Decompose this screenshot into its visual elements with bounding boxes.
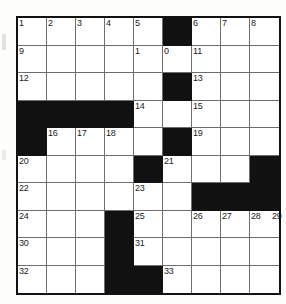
clue-number: 20 xyxy=(19,156,29,166)
block-cell xyxy=(163,18,192,46)
letter-cell[interactable]: 1 xyxy=(18,18,47,46)
letter-cell[interactable] xyxy=(76,183,105,211)
letter-cell[interactable]: 7 xyxy=(221,18,250,46)
letter-cell[interactable] xyxy=(163,101,192,129)
letter-cell[interactable] xyxy=(105,73,134,101)
letter-cell[interactable] xyxy=(105,156,134,184)
letter-cell[interactable] xyxy=(221,266,250,294)
clue-number: 11 xyxy=(193,46,202,56)
clue-number: 26 xyxy=(193,211,203,221)
clue-number: 3 xyxy=(77,18,82,28)
clue-number: 8 xyxy=(251,18,256,28)
clue-number: 30 xyxy=(19,238,29,248)
clue-number: 19 xyxy=(193,128,203,138)
letter-cell[interactable]: 21 xyxy=(163,156,192,184)
letter-cell[interactable] xyxy=(221,101,250,129)
letter-cell[interactable] xyxy=(105,183,134,211)
letter-cell[interactable]: 24 xyxy=(18,211,47,239)
block-cell xyxy=(250,156,279,184)
letter-cell[interactable] xyxy=(250,266,279,294)
letter-cell[interactable] xyxy=(47,211,76,239)
letter-cell[interactable] xyxy=(250,73,279,101)
letter-cell[interactable]: 19 xyxy=(192,128,221,156)
block-cell xyxy=(18,128,47,156)
letter-cell[interactable]: 15 xyxy=(192,101,221,129)
block-cell xyxy=(250,183,279,211)
crossword-grid[interactable]: 1234567891011121314151617181920212223242… xyxy=(16,16,281,295)
letter-cell[interactable] xyxy=(221,156,250,184)
letter-cell[interactable]: 17 xyxy=(76,128,105,156)
letter-cell[interactable] xyxy=(47,238,76,266)
letter-cell[interactable]: 26 xyxy=(192,211,221,239)
letter-cell[interactable] xyxy=(47,73,76,101)
letter-cell[interactable] xyxy=(134,128,163,156)
letter-cell[interactable]: 16 xyxy=(47,128,76,156)
letter-cell[interactable]: 20 xyxy=(18,156,47,184)
crossword-page: 1234567891011121314151617181920212223242… xyxy=(0,0,286,304)
block-cell xyxy=(47,101,76,129)
letter-cell[interactable]: 18 xyxy=(105,128,134,156)
letter-cell[interactable] xyxy=(134,73,163,101)
letter-cell[interactable] xyxy=(163,238,192,266)
letter-cell[interactable]: 31 xyxy=(134,238,163,266)
letter-cell[interactable] xyxy=(163,211,192,239)
letter-cell[interactable] xyxy=(250,101,279,129)
letter-cell[interactable]: 2829 xyxy=(250,211,279,239)
block-cell xyxy=(18,101,47,129)
letter-cell[interactable]: 30 xyxy=(18,238,47,266)
letter-cell[interactable]: 22 xyxy=(18,183,47,211)
clue-number: 21 xyxy=(164,156,174,166)
letter-cell[interactable]: 6 xyxy=(192,18,221,46)
letter-cell[interactable]: 23 xyxy=(134,183,163,211)
clue-number: 9 xyxy=(19,46,24,56)
letter-cell[interactable] xyxy=(76,73,105,101)
clue-number: 0 xyxy=(164,46,169,56)
clue-number: 17 xyxy=(77,128,87,138)
letter-cell[interactable] xyxy=(76,238,105,266)
letter-cell[interactable] xyxy=(47,46,76,74)
letter-cell[interactable]: 9 xyxy=(18,46,47,74)
letter-cell[interactable] xyxy=(76,156,105,184)
letter-cell[interactable] xyxy=(192,238,221,266)
letter-cell[interactable] xyxy=(221,73,250,101)
letter-cell[interactable] xyxy=(221,238,250,266)
letter-cell[interactable] xyxy=(192,266,221,294)
letter-cell[interactable]: 32 xyxy=(18,266,47,294)
letter-cell[interactable] xyxy=(47,266,76,294)
letter-cell[interactable]: 0 xyxy=(163,46,192,74)
letter-cell[interactable]: 13 xyxy=(192,73,221,101)
block-cell xyxy=(134,266,163,294)
letter-cell[interactable] xyxy=(76,46,105,74)
clue-number: 28 xyxy=(251,211,261,221)
clue-number: 1 xyxy=(135,46,140,56)
letter-cell[interactable] xyxy=(47,183,76,211)
letter-cell[interactable] xyxy=(192,156,221,184)
letter-cell[interactable]: 14 xyxy=(134,101,163,129)
letter-cell[interactable]: 8 xyxy=(250,18,279,46)
letter-cell[interactable]: 33 xyxy=(163,266,192,294)
clue-number: 32 xyxy=(19,266,29,276)
letter-cell[interactable]: 3 xyxy=(76,18,105,46)
letter-cell[interactable] xyxy=(76,266,105,294)
letter-cell[interactable]: 4 xyxy=(105,18,134,46)
block-cell xyxy=(163,73,192,101)
letter-cell[interactable] xyxy=(250,238,279,266)
letter-cell[interactable]: 1 xyxy=(134,46,163,74)
block-cell xyxy=(105,238,134,266)
letter-cell[interactable] xyxy=(250,128,279,156)
letter-cell[interactable] xyxy=(221,46,250,74)
letter-cell[interactable] xyxy=(105,46,134,74)
letter-cell[interactable]: 5 xyxy=(134,18,163,46)
letter-cell[interactable]: 27 xyxy=(221,211,250,239)
letter-cell[interactable]: 2 xyxy=(47,18,76,46)
letter-cell[interactable]: 25 xyxy=(134,211,163,239)
letter-cell[interactable]: 12 xyxy=(18,73,47,101)
letter-cell[interactable] xyxy=(163,183,192,211)
letter-cell[interactable] xyxy=(76,211,105,239)
letter-cell[interactable] xyxy=(47,156,76,184)
letter-cell[interactable]: 11 xyxy=(192,46,221,74)
block-cell xyxy=(105,101,134,129)
clue-number: 1 xyxy=(19,18,24,28)
letter-cell[interactable] xyxy=(250,46,279,74)
letter-cell[interactable] xyxy=(221,128,250,156)
